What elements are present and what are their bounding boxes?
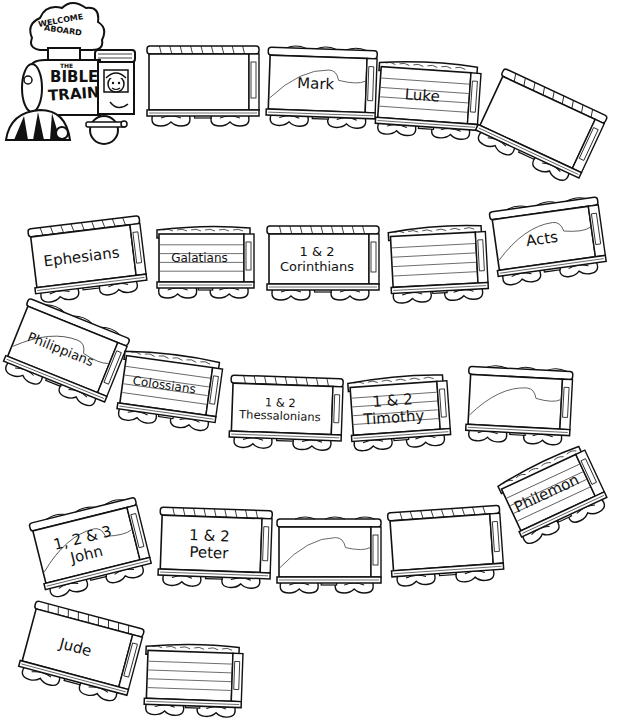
car-label: 1 & 2Thessalonians (228, 395, 333, 425)
car-label: 1 & 2Peter (157, 526, 262, 564)
train-car: Colossians (113, 343, 228, 439)
car-drawing (145, 42, 263, 132)
train-car: Galatians (155, 222, 258, 304)
car-label-line: Corinthians (265, 260, 369, 275)
train-car: 1 & 2Timothy (345, 368, 455, 457)
train-car (463, 362, 577, 452)
train-car: Philippians (0, 294, 135, 419)
train-car: Jude (13, 596, 150, 712)
train-car (386, 219, 493, 309)
car-label: Mark (265, 74, 367, 95)
train-car: 1 & 2Peter (156, 503, 277, 595)
car-label: Galatians (155, 252, 244, 266)
train-car (385, 501, 509, 593)
car-drawing (385, 501, 509, 593)
car-drawing (463, 362, 577, 452)
engine-title-line2: TRAIN (47, 83, 100, 105)
train-car: Philemon (493, 438, 617, 553)
train-car: Ephesians (25, 211, 152, 310)
car-drawing (467, 64, 613, 194)
car-drawing (386, 219, 493, 309)
car-drawing (142, 638, 248, 724)
train-car (467, 64, 613, 194)
car-label-line: Peter (157, 543, 262, 564)
car-label: 1 & 2Timothy (347, 389, 440, 430)
car-label-line: Mark (265, 74, 367, 95)
bible-train-engine: WELCOME ABOARD THE BIBLE TRAIN (0, 0, 150, 150)
train-car: 1, 2 & 3John (26, 492, 159, 605)
train-car (275, 515, 385, 599)
car-drawing (275, 515, 385, 599)
train-car: Acts (487, 192, 613, 292)
car-label: 1 & 2Corinthians (265, 245, 369, 275)
train-car: 1 & 2Corinthians (265, 222, 383, 306)
train-car: Mark (263, 43, 381, 135)
train-car (142, 638, 248, 724)
car-label-line: 1 & 2 (265, 245, 369, 260)
train-car: Luke (372, 54, 486, 146)
car-label-line: Galatians (155, 252, 244, 266)
train-car (145, 42, 263, 132)
train-car: 1 & 2Thessalonians (227, 371, 348, 457)
